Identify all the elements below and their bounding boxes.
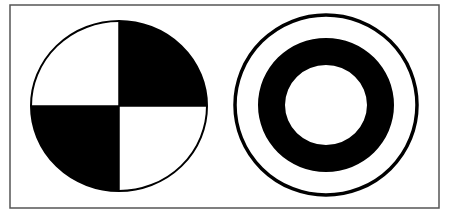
figure-canvas (0, 0, 453, 215)
concentric-ring-symbol (235, 15, 417, 195)
